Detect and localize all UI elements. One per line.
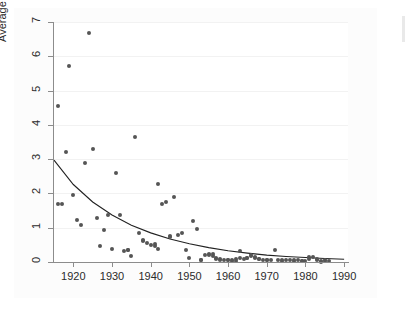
x-axis-tick bbox=[267, 263, 268, 267]
y-axis-tick-label: 6 bbox=[30, 44, 42, 64]
data-point bbox=[95, 216, 99, 220]
right-edge-mark bbox=[402, 16, 405, 42]
x-axis-tick-label: 1950 bbox=[169, 270, 209, 282]
y-axis-tick-label: 1 bbox=[30, 216, 42, 236]
y-axis-tick bbox=[48, 262, 53, 263]
y-axis-tick bbox=[48, 56, 53, 57]
y-axis-tick-label: 0 bbox=[30, 250, 42, 270]
y-axis-tick bbox=[48, 228, 53, 229]
x-axis-tick-label: 1970 bbox=[247, 270, 287, 282]
x-axis-tick-label: 1930 bbox=[92, 270, 132, 282]
y-axis-tick bbox=[48, 159, 53, 160]
x-axis-tick-label: 1980 bbox=[285, 270, 325, 282]
y-axis-title: Average number of lives lost bbox=[0, 0, 8, 42]
data-point bbox=[114, 171, 118, 175]
x-axis-tick bbox=[305, 263, 306, 267]
data-point bbox=[110, 247, 114, 251]
y-axis-tick bbox=[48, 91, 53, 92]
x-axis-tick-label: 1940 bbox=[131, 270, 171, 282]
x-axis-tick bbox=[228, 263, 229, 267]
y-axis-tick bbox=[48, 125, 53, 126]
data-point bbox=[153, 242, 157, 246]
plot-area bbox=[54, 22, 348, 262]
data-point bbox=[64, 150, 68, 154]
x-axis-tick bbox=[73, 263, 74, 267]
x-axis-tick bbox=[112, 263, 113, 267]
data-point bbox=[199, 258, 203, 262]
data-point bbox=[184, 248, 188, 252]
fitted-trend-line bbox=[54, 22, 348, 262]
y-axis-tick-label: 2 bbox=[30, 181, 42, 201]
x-axis-tick-label: 1990 bbox=[324, 270, 364, 282]
data-point bbox=[91, 147, 95, 151]
data-point bbox=[83, 161, 87, 165]
x-axis-tick-label: 1960 bbox=[208, 270, 248, 282]
data-point bbox=[238, 249, 242, 253]
y-axis-line bbox=[53, 22, 54, 263]
data-point bbox=[118, 213, 122, 217]
y-axis-tick-label: 3 bbox=[30, 147, 42, 167]
y-axis-tick bbox=[48, 22, 53, 23]
x-axis-tick bbox=[189, 263, 190, 267]
data-point bbox=[180, 231, 184, 235]
data-point bbox=[56, 104, 60, 108]
chart-figure: 01234567 1920193019401950196019701980199… bbox=[0, 0, 407, 312]
y-axis-tick-label: 4 bbox=[30, 113, 42, 133]
x-axis-tick-label: 1920 bbox=[53, 270, 93, 282]
y-axis-tick-label: 5 bbox=[30, 79, 42, 99]
data-point bbox=[137, 231, 141, 235]
data-point bbox=[126, 248, 130, 252]
x-axis-tick bbox=[344, 263, 345, 267]
data-point bbox=[273, 248, 277, 252]
y-axis-tick-label: 7 bbox=[30, 10, 42, 30]
x-axis-tick bbox=[151, 263, 152, 267]
y-axis-tick bbox=[48, 193, 53, 194]
